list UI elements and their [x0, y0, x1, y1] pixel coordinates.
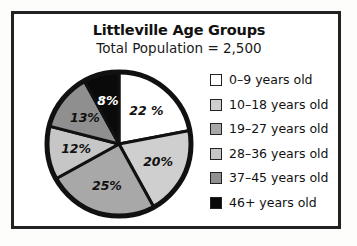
pie-slice-label-2: 25% [92, 178, 122, 193]
legend-item-2: 19–27 years old [210, 117, 350, 142]
screenshot-root: Littleville Age Groups Total Population … [0, 0, 357, 246]
pie-slice-label-0: 22 % [129, 103, 163, 118]
legend-swatch-icon-1 [210, 99, 222, 111]
pie-slice-label-4: 13% [70, 110, 100, 125]
chart-subtitle: Total Population = 2,500 [14, 40, 344, 57]
legend-swatch-icon-3 [210, 148, 222, 160]
legend-item-5: 46+ years old [210, 191, 350, 216]
legend-item-4: 37–45 years old [210, 166, 350, 191]
legend-label-1: 10–18 years old [229, 98, 328, 112]
pie-slice-label-1: 20% [143, 154, 173, 169]
legend-item-3: 28–36 years old [210, 142, 350, 167]
legend-item-1: 10–18 years old [210, 93, 350, 118]
legend-swatch-icon-2 [210, 123, 222, 135]
title-block: Littleville Age Groups Total Population … [14, 22, 344, 57]
pie-slice-label-5: 8% [97, 93, 118, 108]
legend-label-4: 37–45 years old [229, 171, 328, 185]
legend-label-3: 28–36 years old [229, 147, 328, 161]
legend: 0–9 years old 10–18 years old 19–27 year… [210, 68, 350, 215]
pie-slice-label-3: 12% [61, 141, 91, 156]
legend-label-5: 46+ years old [229, 196, 317, 210]
legend-label-2: 19–27 years old [229, 122, 328, 136]
legend-label-0: 0–9 years old [229, 73, 313, 87]
pie-chart-svg: 22 %20%25%12%13%8% [39, 64, 199, 224]
chart-frame: Littleville Age Groups Total Population … [11, 11, 341, 229]
pie-chart: 22 %20%25%12%13%8% [39, 64, 199, 224]
legend-swatch-icon-4 [210, 172, 222, 184]
chart-title: Littleville Age Groups [14, 22, 344, 39]
legend-swatch-icon-0 [210, 74, 222, 86]
legend-swatch-icon-5 [210, 197, 222, 209]
legend-item-0: 0–9 years old [210, 68, 350, 93]
